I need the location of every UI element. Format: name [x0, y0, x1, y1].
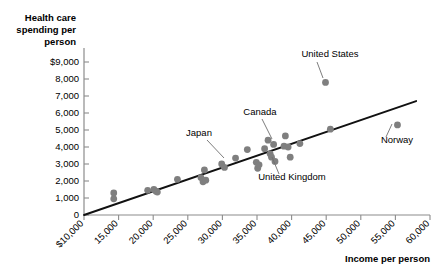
data-point: [221, 164, 228, 171]
data-point: [232, 155, 239, 162]
y-tick-label: 4,000: [55, 141, 79, 152]
y-axis-title-line1: Health care: [25, 12, 76, 23]
annotation-label: United States: [301, 48, 358, 59]
chart-figure: Health care spending per person 01,0002,…: [0, 0, 441, 276]
x-tick-label: 25,000: [161, 218, 189, 246]
y-tick-label: 6,000: [55, 107, 79, 118]
data-point: [327, 126, 334, 133]
y-axis-title-line3: person: [44, 36, 76, 47]
y-tick-label: $9,000: [50, 56, 79, 67]
y-tick-label: 3,000: [55, 158, 79, 169]
data-point: [287, 154, 294, 161]
annotation-label: United Kingdom: [258, 171, 326, 182]
data-point: [201, 167, 208, 174]
data-point: [322, 79, 329, 86]
data-point: [270, 141, 277, 148]
data-point: [265, 137, 272, 144]
annotation-label: Japan: [186, 127, 212, 138]
annotation-leader-line: [262, 119, 272, 139]
y-tick-label: 2,000: [55, 175, 79, 186]
data-point: [256, 161, 263, 168]
data-point: [394, 122, 401, 129]
data-point: [297, 140, 304, 147]
x-axis-title: Income per person: [345, 253, 430, 264]
data-point: [202, 177, 209, 184]
x-tick-label: 15,000: [92, 218, 120, 246]
x-tick-label: 45,000: [299, 218, 327, 246]
data-point: [144, 187, 151, 194]
data-point: [285, 144, 292, 151]
data-points-group: [110, 79, 401, 202]
x-axis-ticks: $10,00015,00020,00025,00030,00035,00040,…: [53, 215, 431, 250]
x-tick-label: $10,000: [53, 218, 85, 250]
data-point: [282, 133, 289, 140]
x-tick-label: 60,000: [403, 218, 431, 246]
y-tick-label: 7,000: [55, 90, 79, 101]
y-axis-ticks: 01,0002,0003,0004,0005,0006,0007,0008,00…: [50, 56, 89, 220]
trend-line-group: [84, 101, 416, 215]
annotation-leader-line: [207, 140, 224, 158]
annotation-label: Norway: [381, 134, 413, 145]
annotation-leader-line: [317, 62, 323, 78]
x-tick-label: 40,000: [265, 218, 293, 246]
y-axis-title-line2: spending per: [16, 24, 76, 35]
x-tick-label: 20,000: [126, 218, 154, 246]
data-point: [174, 176, 181, 183]
y-tick-label: 8,000: [55, 73, 79, 84]
x-tick-label: 50,000: [334, 218, 362, 246]
x-tick-label: 35,000: [230, 218, 258, 246]
annotation-label: Canada: [243, 106, 277, 117]
trend-line: [84, 101, 416, 215]
data-point: [244, 146, 251, 153]
x-tick-label: 30,000: [195, 218, 223, 246]
data-point: [110, 190, 117, 197]
data-point: [261, 145, 268, 152]
y-tick-label: 5,000: [55, 124, 79, 135]
data-point: [154, 189, 161, 196]
y-tick-label: 1,000: [55, 192, 79, 203]
data-point: [110, 195, 117, 202]
x-tick-label: 55,000: [368, 218, 396, 246]
scatter-plot: Health care spending per person 01,0002,…: [0, 0, 441, 276]
